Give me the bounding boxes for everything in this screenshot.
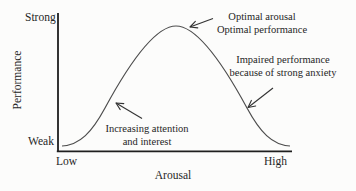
y-axis-title: Performance — [11, 51, 23, 110]
increasing-arrow — [116, 103, 142, 119]
yerkes-dodson-figure: Strong Performance Weak Low High Arousal… — [0, 0, 356, 191]
y-axis-max-label: Strong — [25, 11, 56, 23]
x-axis-max-label: High — [264, 155, 287, 167]
annotation-impaired-line2: because of strong anxiety — [229, 66, 336, 79]
annotation-optimal: Optimal arousal Optimal performance — [217, 10, 307, 36]
annotation-increasing-line1: Increasing attention — [105, 122, 188, 135]
annotation-optimal-line2: Optimal performance — [217, 23, 307, 36]
annotation-increasing-line2: and interest — [105, 135, 188, 148]
annotation-impaired: Impaired performance because of strong a… — [229, 53, 336, 79]
annotation-increasing: Increasing attention and interest — [105, 122, 188, 148]
x-axis-min-label: Low — [56, 155, 77, 167]
annotation-impaired-line1: Impaired performance — [229, 53, 336, 66]
y-axis-min-label: Weak — [28, 135, 54, 147]
impaired-arrow — [248, 88, 273, 108]
annotation-optimal-line1: Optimal arousal — [217, 10, 307, 23]
x-axis-title: Arousal — [155, 169, 191, 181]
optimal-arrow — [190, 19, 213, 28]
